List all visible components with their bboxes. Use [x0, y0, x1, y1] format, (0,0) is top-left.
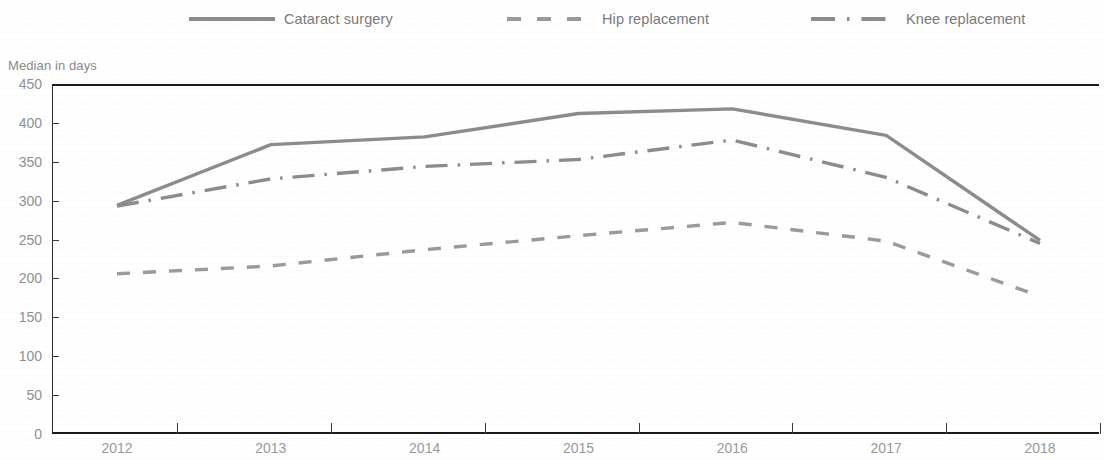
y-axis-tick [52, 240, 59, 241]
dashed-line-key-icon [507, 12, 593, 26]
x-axis-label: 2015 [544, 440, 614, 456]
chart-legend: Cataract surgery Hip replacement Knee re… [0, 0, 1105, 40]
x-axis-tick [639, 423, 640, 434]
x-axis-tick [792, 423, 793, 434]
y-axis-label: 50 [0, 387, 42, 403]
y-axis-label: 450 [0, 76, 42, 92]
solid-line-key-icon [189, 12, 275, 26]
plot-area [52, 84, 1099, 434]
x-axis-tick [485, 423, 486, 434]
y-axis-tick [52, 356, 59, 357]
y-axis-label: 200 [0, 270, 42, 286]
x-axis-label: 2012 [82, 440, 152, 456]
y-axis-title: Median in days [8, 58, 97, 73]
x-axis-tick [1100, 423, 1101, 434]
x-axis-label: 2013 [236, 440, 306, 456]
y-axis-label: 250 [0, 232, 42, 248]
x-axis-label: 2018 [1005, 440, 1075, 456]
y-axis-label: 0 [0, 426, 42, 442]
dash-dot-line-key-icon [811, 12, 897, 26]
x-axis-tick [177, 423, 178, 434]
legend-label-cataract-surgery: Cataract surgery [284, 10, 393, 28]
legend-label-knee-replacement: Knee replacement [906, 10, 1025, 28]
y-axis-label: 350 [0, 154, 42, 170]
y-axis-tick [52, 162, 59, 163]
legend-item-hip-replacement: Hip replacement [507, 10, 709, 28]
y-axis-tick [52, 395, 59, 396]
x-axis-tick [331, 423, 332, 434]
x-axis-label: 2017 [851, 440, 921, 456]
legend-item-cataract-surgery: Cataract surgery [189, 10, 393, 28]
y-axis-tick [52, 201, 59, 202]
y-axis-tick [52, 317, 59, 318]
y-axis-tick [52, 123, 59, 124]
y-axis-label: 300 [0, 193, 42, 209]
x-axis-tick [946, 423, 947, 434]
legend-item-knee-replacement: Knee replacement [811, 10, 1025, 28]
y-axis-label: 100 [0, 348, 42, 364]
x-axis-label: 2014 [390, 440, 460, 456]
y-axis-label: 400 [0, 115, 42, 131]
x-axis-label: 2016 [697, 440, 767, 456]
y-axis-label: 150 [0, 309, 42, 325]
legend-label-hip-replacement: Hip replacement [602, 10, 709, 28]
y-axis-tick [52, 278, 59, 279]
